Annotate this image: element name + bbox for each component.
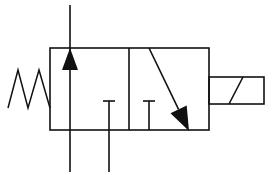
valve-symbol-svg — [0, 0, 273, 175]
arrow-up-icon — [62, 48, 78, 70]
solenoid-icon — [209, 77, 264, 104]
spring-icon — [8, 70, 50, 108]
arrow-diagonal-icon — [170, 105, 189, 131]
solenoid-slash — [229, 77, 243, 104]
right-envelope — [143, 48, 189, 131]
spring-zigzag — [8, 70, 50, 108]
valve-diagram: 3/2 way directional control valve, solen… — [0, 0, 273, 175]
left-envelope — [62, 5, 115, 172]
flow-line-diagonal — [149, 48, 179, 109]
